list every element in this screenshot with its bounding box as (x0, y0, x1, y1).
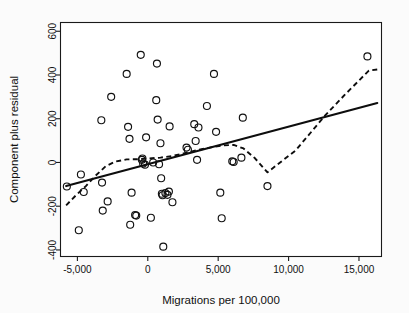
x-axis-title: Migrations per 100,000 (162, 294, 280, 306)
x-tick-label: 0 (145, 264, 151, 275)
x-tick-label: 5,000 (206, 264, 231, 275)
y-tick-label: -200 (47, 196, 58, 216)
x-tick-label: 15,000 (344, 264, 375, 275)
y-tick-label: 0 (47, 159, 58, 165)
figure-container: -5,00005,00010,00015,000 -400-2000200400… (0, 0, 409, 313)
y-tick-label: 600 (47, 22, 58, 39)
y-tick-label: 200 (47, 110, 58, 127)
y-tick-label: 400 (47, 66, 58, 83)
y-axis-title: Component plus residual (8, 76, 20, 203)
y-tick-label: -400 (47, 239, 58, 259)
x-tick-label: -5,000 (63, 264, 92, 275)
x-tick-label: 10,000 (273, 264, 304, 275)
component-plus-residual-scatter-plot: -5,00005,00010,00015,000 -400-2000200400… (0, 0, 409, 313)
